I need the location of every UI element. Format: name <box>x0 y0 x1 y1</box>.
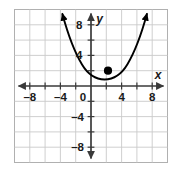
x-tick-label-4: 4 <box>118 91 125 103</box>
marked-point <box>104 67 112 75</box>
x-tick-label-neg8: –8 <box>23 91 36 103</box>
origin-label: 0 <box>80 91 86 103</box>
coordinate-plane: –8 –4 0 4 8 8 4 –4 –8 x y <box>0 0 182 172</box>
y-axis-letter: y <box>95 12 104 26</box>
y-tick-label-neg8: –8 <box>71 141 84 153</box>
y-tick-label-4: 4 <box>76 49 83 61</box>
graph-figure: –8 –4 0 4 8 8 4 –4 –8 x y <box>0 0 182 172</box>
y-tick-label-neg4: –4 <box>71 111 84 123</box>
y-tick-label-8: 8 <box>76 19 83 31</box>
x-tick-label-8: 8 <box>149 91 156 103</box>
x-tick-label-neg4: –4 <box>54 91 67 103</box>
x-axis-letter: x <box>154 68 163 82</box>
